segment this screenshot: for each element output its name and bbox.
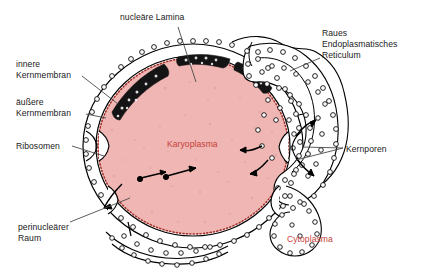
label-innere-kernmembran-line2: Kernmembran <box>16 70 71 80</box>
label-ribosomen: Ribosomen <box>16 141 60 151</box>
label-raues-er-line3: Reticulum <box>322 50 361 60</box>
label-perinuclearer-raum-line2: Raum <box>18 233 41 243</box>
label-innere-kernmembran-line1: innere <box>16 59 40 69</box>
cell-nucleus-diagram: nucleäre Lamina Raues Endoplasmatisches … <box>0 0 425 270</box>
label-perinuclearer-raum-line1: perinucleärer <box>18 222 69 232</box>
label-nucleaere-lamina: nucleäre Lamina <box>120 12 184 22</box>
label-raues-er-line2: Endoplasmatisches <box>322 39 397 49</box>
label-aeussere-kernmembran-line2: Kernmembran <box>16 108 71 118</box>
label-karyoplasma: Karyoplasma <box>167 139 218 149</box>
label-cytoplasma: Cytoplasma <box>287 234 333 244</box>
label-kernporen: Kernporen <box>346 144 387 154</box>
label-raues-er-line1: Raues <box>322 28 347 38</box>
label-aeussere-kernmembran-line1: äußere <box>16 97 44 107</box>
